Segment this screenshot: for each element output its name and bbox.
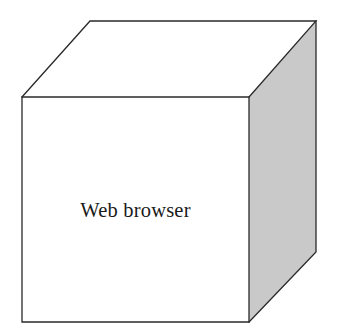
cube-graphic (0, 0, 338, 334)
cube-front-face (22, 97, 249, 322)
diagram-canvas: Web browser (0, 0, 338, 334)
